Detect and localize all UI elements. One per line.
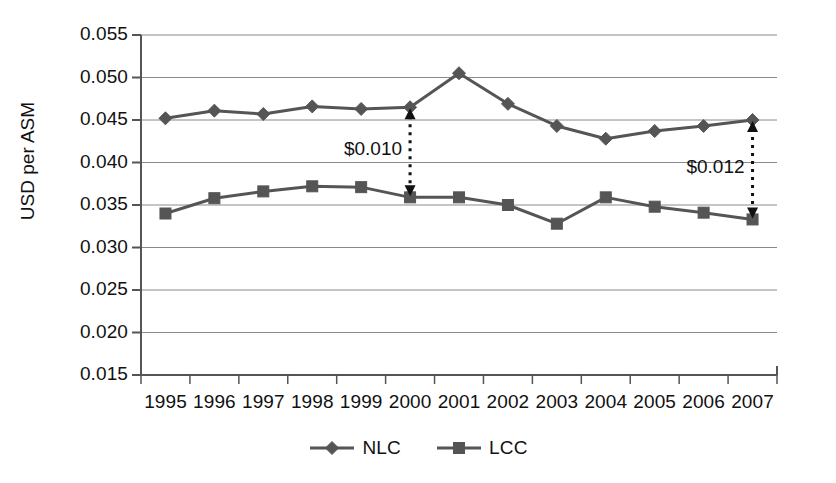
legend-label: NLC xyxy=(362,437,401,459)
x-axis-tick-label: 2000 xyxy=(386,391,435,413)
data-point-diamond xyxy=(550,119,563,132)
data-point-square xyxy=(551,218,562,229)
x-axis-tick-label: 1996 xyxy=(190,391,239,413)
x-axis-tick-label: 2004 xyxy=(581,391,630,413)
legend-marker-diamond xyxy=(308,438,356,458)
data-point-square xyxy=(698,207,709,218)
x-axis-tick-label: 1995 xyxy=(141,391,190,413)
data-point-diamond xyxy=(257,108,270,121)
data-point-diamond xyxy=(355,102,368,115)
x-axis-tick-label: 2006 xyxy=(679,391,728,413)
legend-label: LCC xyxy=(489,437,528,459)
data-point-square xyxy=(649,201,660,212)
x-axis-tick-label: 2007 xyxy=(728,391,777,413)
x-axis-tick-label: 1998 xyxy=(288,391,337,413)
y-axis-tick-label: 0.015 xyxy=(20,363,128,385)
annotation-label: $0.012 xyxy=(673,156,745,178)
data-point-square xyxy=(600,192,611,203)
data-point-diamond xyxy=(697,119,710,132)
x-axis-tick-label: 1997 xyxy=(239,391,288,413)
y-axis-tick-label: 0.040 xyxy=(20,151,128,173)
x-axis-tick-label: 2001 xyxy=(435,391,484,413)
data-point-diamond xyxy=(599,132,612,145)
line-chart: USD per ASM 0.0550.0500.0450.0400.0350.0… xyxy=(0,0,836,483)
data-point-square xyxy=(258,186,269,197)
series-line-nlc xyxy=(165,73,752,138)
y-axis-tick-label: 0.055 xyxy=(20,23,128,45)
data-point-square xyxy=(209,193,220,204)
annotation-label: $0.010 xyxy=(330,138,402,160)
legend-item-nlc[interactable]: NLC xyxy=(308,437,401,459)
data-point-diamond xyxy=(306,100,319,113)
data-point-square xyxy=(454,443,465,454)
y-axis-tick-label: 0.025 xyxy=(20,278,128,300)
y-axis-tick-label: 0.035 xyxy=(20,193,128,215)
legend-marker-square xyxy=(435,438,483,458)
data-point-diamond xyxy=(208,104,221,117)
y-axis-tick-label: 0.020 xyxy=(20,321,128,343)
gridlines xyxy=(132,35,777,375)
data-point-square xyxy=(502,200,513,211)
data-point-square xyxy=(160,208,171,219)
data-point-diamond xyxy=(159,112,172,125)
y-axis-tick-label: 0.045 xyxy=(20,108,128,130)
data-point-diamond xyxy=(648,125,661,138)
x-axis-tick-label: 2005 xyxy=(630,391,679,413)
x-axis-ticks xyxy=(141,375,777,384)
x-axis-tick-label: 2002 xyxy=(483,391,532,413)
legend-item-lcc[interactable]: LCC xyxy=(435,437,528,459)
data-point-square xyxy=(454,192,465,203)
data-point-square xyxy=(356,182,367,193)
y-axis-tick-label: 0.030 xyxy=(20,236,128,258)
chart-legend: NLCLCC xyxy=(0,437,836,459)
y-axis-tick-label: 0.050 xyxy=(20,66,128,88)
data-point-square xyxy=(307,181,318,192)
data-point-diamond xyxy=(326,442,339,455)
x-axis-tick-label: 1999 xyxy=(337,391,386,413)
x-axis-tick-label: 2003 xyxy=(532,391,581,413)
